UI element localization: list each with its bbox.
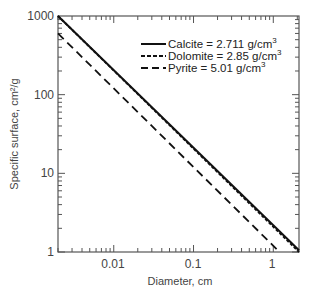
legend-pyrite: Pyrite = 5.01 g/cm3 [168, 60, 266, 74]
x-tick-0.1: 0.1 [185, 257, 202, 271]
y-tick-1000: 1000 [27, 9, 54, 23]
chart: 1000 100 10 1 0.01 0.1 1 Diameter, cm Sp… [0, 0, 315, 293]
y-axis-title: Specific surface, cm²/g [8, 78, 20, 189]
legend: Calcite = 2.711 g/cm3 Dolomite = 2.85 g/… [141, 36, 282, 74]
y-tick-10: 10 [41, 166, 55, 180]
y-tick-1: 1 [47, 245, 54, 259]
x-tick-0.01: 0.01 [101, 257, 125, 271]
x-tick-1: 1 [269, 257, 276, 271]
legend-calcite: Calcite = 2.711 g/cm3 [168, 36, 277, 50]
y-tick-100: 100 [34, 88, 54, 102]
x-axis-title: Diameter, cm [148, 275, 213, 287]
